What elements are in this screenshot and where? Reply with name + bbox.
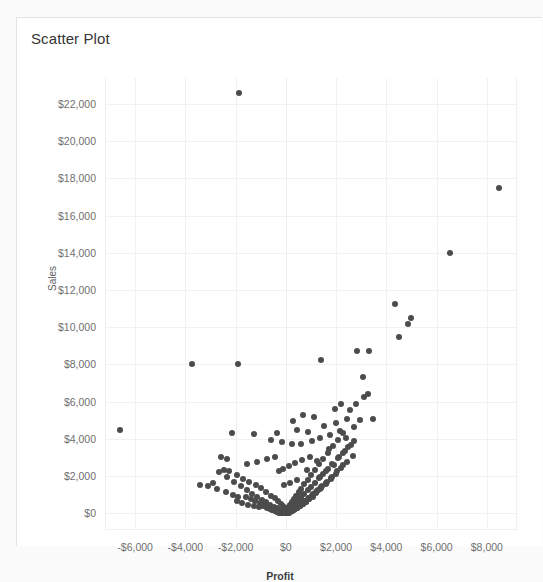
scatter-point[interactable] <box>318 357 324 363</box>
scatter-point[interactable] <box>287 480 293 486</box>
plot-frame <box>105 78 517 530</box>
gridline-horizontal <box>105 327 517 328</box>
y-axis-tick-label: $16,000 <box>58 210 96 222</box>
scatter-point[interactable] <box>353 401 359 407</box>
gridline-horizontal <box>105 290 517 291</box>
x-axis-tick-label: -$6,000 <box>117 541 153 553</box>
scatter-point[interactable] <box>361 394 367 400</box>
scatter-point[interactable] <box>294 427 300 433</box>
page-title: Scatter Plot <box>31 30 110 47</box>
scatter-point[interactable] <box>303 499 309 505</box>
y-axis-tick-label: $20,000 <box>58 135 96 147</box>
scatter-point[interactable] <box>223 489 229 495</box>
scatter-point[interactable] <box>268 437 274 443</box>
x-axis-tick-label: $4,000 <box>370 541 402 553</box>
y-axis-tick-label: $6,000 <box>64 396 96 408</box>
y-axis-tick-label: $10,000 <box>58 321 96 333</box>
scatter-point[interactable] <box>350 453 356 459</box>
scatter-point[interactable] <box>370 416 376 422</box>
gridline-horizontal <box>105 513 517 514</box>
scatter-point[interactable] <box>224 474 230 480</box>
y-axis-tick-label: $14,000 <box>58 247 96 259</box>
scatter-point[interactable] <box>239 500 245 506</box>
scatter-point[interactable] <box>286 463 292 469</box>
gridline-vertical <box>185 78 186 530</box>
scatter-point[interactable] <box>240 476 246 482</box>
y-axis-tick-label: $8,000 <box>64 358 96 370</box>
y-axis-tick-label: $0 <box>84 507 96 519</box>
gridline-horizontal <box>105 178 517 179</box>
gridline-vertical <box>487 78 488 530</box>
scatter-point[interactable] <box>298 441 304 447</box>
scatter-point[interactable] <box>218 454 224 460</box>
x-axis-tick-label: -$4,000 <box>168 541 204 553</box>
gridline-vertical <box>135 78 136 530</box>
x-axis-tick-label: $6,000 <box>421 541 453 553</box>
scatter-point[interactable] <box>272 454 278 460</box>
chart-container: Sales Profit $0$2,000$4,000$6,000$8,000$… <box>17 58 543 547</box>
plot-area[interactable]: $0$2,000$4,000$6,000$8,000$10,000$12,000… <box>105 78 517 530</box>
scatter-point[interactable] <box>336 454 342 460</box>
gridline-horizontal <box>105 141 517 142</box>
scatter-point[interactable] <box>310 494 316 500</box>
scatter-point[interactable] <box>304 467 310 473</box>
x-axis-tick-label: $2,000 <box>320 541 352 553</box>
scatter-point[interactable] <box>317 435 323 441</box>
gridline-horizontal <box>105 104 517 105</box>
y-axis-tick-label: $2,000 <box>64 470 96 482</box>
scatter-point[interactable] <box>366 348 372 354</box>
scatter-plot-card: Scatter Plot Sales Profit $0$2,000$4,000… <box>16 17 542 546</box>
page-top-strip <box>0 0 543 17</box>
scatter-point[interactable] <box>280 466 286 472</box>
x-axis-tick-label: $8,000 <box>471 541 503 553</box>
scatter-point[interactable] <box>335 437 341 443</box>
scatter-point[interactable] <box>312 467 318 473</box>
x-axis-tick-label: $0 <box>280 541 292 553</box>
scatter-point[interactable] <box>321 423 327 429</box>
scatter-point[interactable] <box>117 427 123 433</box>
scatter-point[interactable] <box>294 477 300 483</box>
scatter-point[interactable] <box>317 474 323 480</box>
scatter-point[interactable] <box>279 439 285 445</box>
scatter-point[interactable] <box>331 462 337 468</box>
y-axis-tick-label: $4,000 <box>64 433 96 445</box>
scatter-point[interactable] <box>326 446 332 452</box>
scatter-point[interactable] <box>320 456 326 462</box>
scatter-point[interactable] <box>244 461 250 467</box>
gridline-horizontal <box>105 402 517 403</box>
scatter-point[interactable] <box>332 406 338 412</box>
scatter-point[interactable] <box>309 438 315 444</box>
scatter-point[interactable] <box>408 315 414 321</box>
gridline-vertical <box>437 78 438 530</box>
scatter-point[interactable] <box>238 483 244 489</box>
gridline-horizontal <box>105 216 517 217</box>
scatter-point[interactable] <box>351 424 357 430</box>
x-axis-tick-label: -$2,000 <box>218 541 254 553</box>
gridline-horizontal <box>105 364 517 365</box>
scatter-point[interactable] <box>347 407 353 413</box>
gridline-vertical <box>236 78 237 530</box>
scatter-point[interactable] <box>342 448 348 454</box>
y-axis-tick-label: $22,000 <box>58 98 96 110</box>
scatter-point[interactable] <box>235 361 241 367</box>
scatter-point[interactable] <box>323 480 329 486</box>
scatter-point[interactable] <box>234 472 240 478</box>
y-axis-title: Sales <box>47 266 58 291</box>
scatter-point[interactable] <box>327 432 333 438</box>
gridline-vertical <box>286 78 287 530</box>
gridline-horizontal <box>105 253 517 254</box>
y-axis-tick-label: $18,000 <box>58 172 96 184</box>
y-axis-tick-label: $12,000 <box>58 284 96 296</box>
x-axis-title: Profit <box>17 570 543 582</box>
gridline-vertical <box>386 78 387 530</box>
